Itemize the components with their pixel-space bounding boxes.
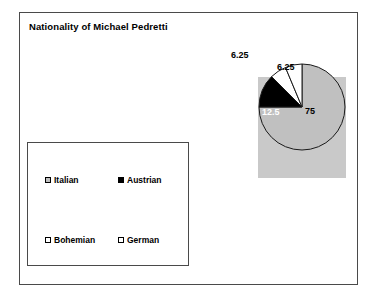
data-label-italian: 75 — [305, 106, 315, 116]
legend-swatch-german — [118, 237, 124, 243]
legend-label-italian: Italian — [54, 176, 79, 185]
legend-swatch-austrian — [118, 177, 124, 183]
legend-label-german: German — [127, 236, 159, 245]
legend-swatch-bohemian — [45, 237, 51, 243]
legend-label-bohemian: Bohemian — [54, 236, 95, 245]
legend-item-german[interactable]: German — [118, 236, 159, 245]
chart-legend: Italian Austrian Bohemian German — [27, 142, 189, 266]
legend-item-bohemian[interactable]: Bohemian — [45, 236, 95, 245]
legend-item-austrian[interactable]: Austrian — [118, 176, 161, 185]
legend-swatch-italian — [45, 177, 51, 183]
data-label-bohemian: 6.25 — [231, 50, 249, 60]
chart-frame: Nationality of Michael Pedretti 6.25 6.2… — [19, 12, 358, 285]
data-label-german: 6.25 — [277, 62, 295, 72]
legend-label-austrian: Austrian — [127, 176, 161, 185]
data-label-austrian: 12.5 — [262, 107, 280, 117]
legend-item-italian[interactable]: Italian — [45, 176, 79, 185]
